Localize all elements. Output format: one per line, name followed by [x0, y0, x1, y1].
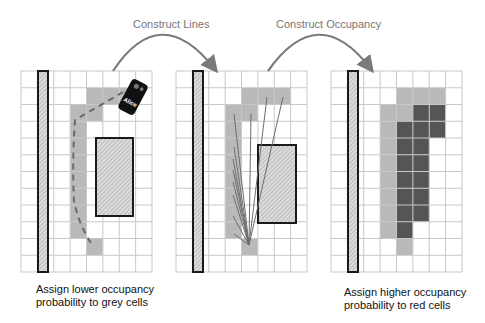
caption-left: Assign lower occupancy probability to gr… [36, 283, 154, 309]
red-cell [413, 155, 429, 172]
grey-cell [103, 88, 119, 105]
grey-cell [70, 121, 86, 138]
arrow-construct-lines [113, 35, 214, 71]
panel-occupancy [331, 71, 462, 272]
grey-cell [380, 121, 396, 138]
caption-right: Assign higher occupancy probability to r… [344, 286, 466, 312]
wall-obstacle [38, 71, 48, 272]
caption-left-line1: Assign lower occupancy [36, 283, 154, 296]
grey-cell [429, 88, 445, 105]
grey-cell [87, 88, 103, 105]
grey-cell [225, 222, 241, 239]
red-cell [413, 105, 429, 122]
red-cell [397, 172, 413, 189]
panel-lines [176, 71, 307, 272]
grey-cell [225, 138, 241, 155]
red-cell [397, 138, 413, 155]
grey-cell [380, 205, 396, 222]
grey-cell [380, 155, 396, 172]
box-obstacle [258, 145, 296, 223]
wall-obstacle [193, 71, 203, 272]
grey-cell [242, 88, 258, 105]
step-label-construct-occupancy: Construct Occupancy [276, 18, 381, 30]
grey-cell [380, 105, 396, 122]
grey-cell [397, 105, 413, 122]
red-cell [397, 222, 413, 239]
red-cell [397, 155, 413, 172]
grey-cell [242, 105, 258, 122]
red-cell [397, 121, 413, 138]
wall-obstacle [348, 71, 358, 272]
red-cell [413, 121, 429, 138]
grey-cell [380, 188, 396, 205]
grey-cell [380, 172, 396, 189]
grey-cell [413, 88, 429, 105]
red-cell [397, 205, 413, 222]
caption-right-line2: probability to red cells [344, 299, 466, 312]
caption-left-line2: probability to grey cells [36, 296, 154, 309]
step-label-construct-lines: Construct Lines [133, 18, 209, 30]
grey-cell [70, 138, 86, 155]
red-cell [413, 172, 429, 189]
red-cell [397, 188, 413, 205]
red-cell [413, 138, 429, 155]
arrow-construct-occupancy [268, 35, 370, 71]
grey-cell [225, 105, 241, 122]
grey-cell [274, 88, 290, 105]
red-cell [429, 121, 445, 138]
grey-cell [87, 105, 103, 122]
red-cell [429, 105, 445, 122]
grey-cell [397, 88, 413, 105]
box-obstacle [96, 138, 133, 216]
grey-cell [380, 222, 396, 239]
panel-observation: Alice [21, 71, 152, 272]
grey-cell [397, 239, 413, 256]
grey-cell [380, 138, 396, 155]
caption-right-line1: Assign higher occupancy [344, 286, 466, 299]
grey-cell [225, 121, 241, 138]
occupancy-diagram: Alice [0, 0, 485, 323]
grey-cell [70, 105, 86, 122]
red-cell [413, 205, 429, 222]
red-cell [413, 188, 429, 205]
